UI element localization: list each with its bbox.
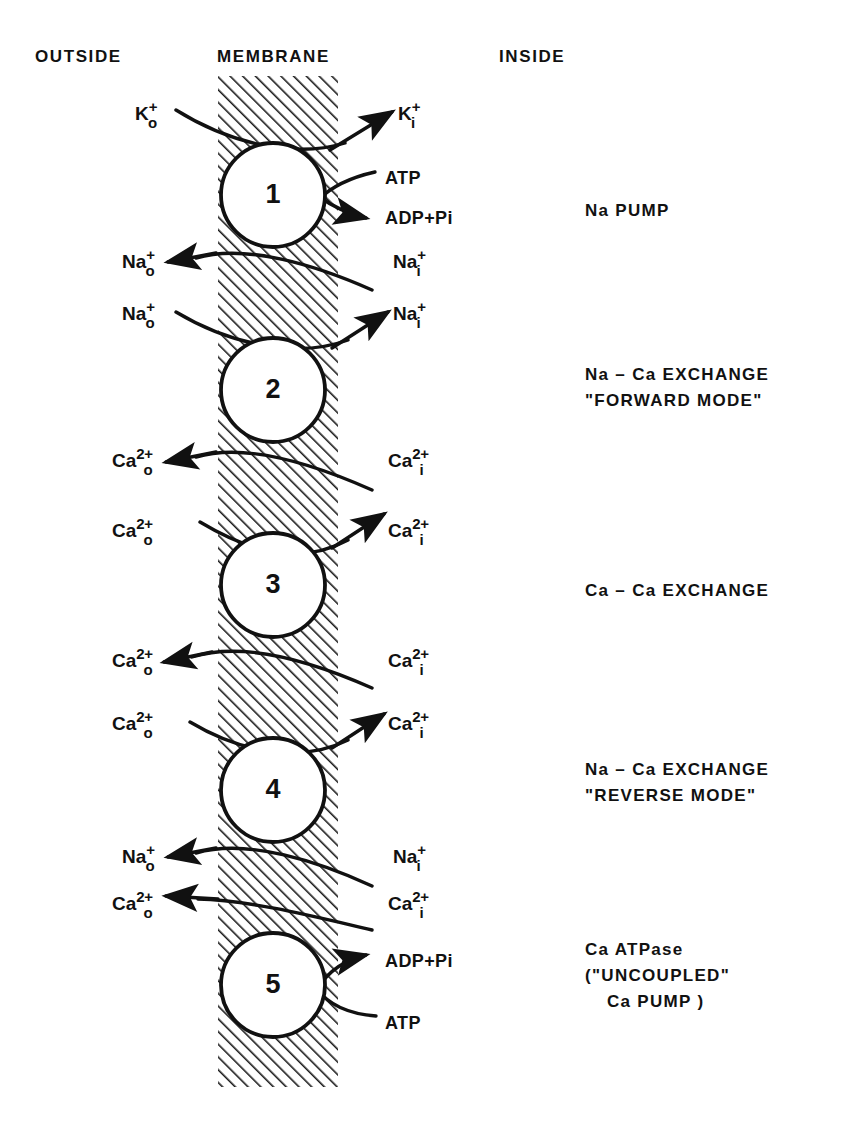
ion-charge: 2+ — [136, 515, 152, 532]
ion-compartment: i — [419, 904, 423, 921]
ion-label-outside-ca-out-1: Ca2+o — [112, 447, 153, 474]
ion-label-outside-na-out-2: Na+o — [122, 300, 155, 327]
ion-symbol: Ca — [112, 713, 136, 734]
ion-compartment: i — [417, 314, 421, 331]
column-header-membrane: MEMBRANE — [217, 47, 330, 67]
molecule-label-adp-pi-5: ADP+Pi — [385, 951, 453, 972]
ion-charge: + — [146, 298, 154, 315]
ion-charge: + — [417, 246, 425, 263]
ion-charge: + — [412, 98, 420, 115]
ion-compartment: o — [148, 114, 157, 131]
system-name-line: Na – Ca EXCHANGE — [585, 757, 769, 783]
system-name-line: "FORWARD MODE" — [585, 388, 769, 414]
ion-symbol: Ca — [388, 520, 412, 541]
ion-compartment: i — [419, 461, 423, 478]
system-name-line: Ca ATPase — [585, 937, 730, 963]
system-name-line: "REVERSE MODE" — [585, 783, 769, 809]
ion-label-inside-na-in-3: Na+i — [393, 843, 421, 870]
ion-compartment: o — [146, 857, 155, 874]
ion-symbol: Ca — [112, 520, 136, 541]
arrow-na-influx-2-head — [332, 312, 388, 348]
ion-compartment: i — [417, 857, 421, 874]
ion-charge: + — [146, 246, 154, 263]
carrier-number-5: 5 — [253, 971, 293, 998]
ion-label-outside-na-out-1: Na+o — [122, 248, 155, 275]
ion-charge: + — [149, 98, 157, 115]
ion-symbol: Ca — [388, 893, 412, 914]
ion-symbol: Na — [122, 251, 146, 272]
ion-compartment: i — [419, 724, 423, 741]
ion-charge: 2+ — [136, 888, 152, 905]
ion-symbol: K — [398, 103, 412, 124]
ion-symbol: K — [135, 103, 149, 124]
ion-charge: 2+ — [136, 645, 152, 662]
ion-symbol: Ca — [388, 713, 412, 734]
ion-compartment: o — [143, 661, 152, 678]
arrow-ca-efflux-5-head — [166, 896, 218, 899]
ion-symbol: Ca — [112, 893, 136, 914]
ion-charge: + — [417, 841, 425, 858]
carrier-number-3: 3 — [253, 571, 293, 598]
ion-compartment: i — [419, 661, 423, 678]
ion-symbol: Na — [393, 251, 417, 272]
ion-label-inside-ca-in-1: Ca2+i — [388, 447, 424, 474]
ion-charge: 2+ — [412, 708, 428, 725]
ion-label-inside-na-in-2: Na+i — [393, 300, 421, 327]
ion-compartment: o — [143, 724, 152, 741]
ion-symbol: Ca — [112, 450, 136, 471]
membrane-transport-diagram: OUTSIDE MEMBRANE INSIDE K+oNa+oNa+oCa2+o… — [0, 0, 854, 1127]
ion-charge: 2+ — [412, 645, 428, 662]
ion-label-inside-ca-in-4: Ca2+i — [388, 710, 424, 737]
ion-compartment: i — [417, 262, 421, 279]
system-name-line: Ca – Ca EXCHANGE — [585, 578, 769, 604]
ion-label-inside-ca-in-5: Ca2+i — [388, 890, 424, 917]
system-name-5: Ca ATPase("UNCOUPLED"Ca PUMP ) — [585, 937, 730, 1015]
ion-label-outside-k-out: K+o — [135, 100, 157, 127]
arrow-na-efflux-1-head — [168, 253, 216, 262]
system-name-3: Ca – Ca EXCHANGE — [585, 578, 769, 604]
carrier-number-2: 2 — [253, 376, 293, 403]
system-name-line: ("UNCOUPLED" — [585, 963, 730, 989]
ion-label-inside-ca-in-3: Ca2+i — [388, 647, 424, 674]
ion-symbol: Na — [122, 846, 146, 867]
ion-compartment: o — [143, 461, 152, 478]
system-name-line: Na PUMP — [585, 198, 670, 224]
arrow-ca-influx-3-head — [332, 514, 384, 548]
ion-compartment: o — [146, 314, 155, 331]
arrow-k-influx-head — [330, 112, 392, 150]
system-name-4: Na – Ca EXCHANGE"REVERSE MODE" — [585, 757, 769, 809]
ion-charge: + — [146, 841, 154, 858]
ion-charge: 2+ — [412, 515, 428, 532]
ion-symbol: Ca — [388, 650, 412, 671]
ion-compartment: o — [143, 531, 152, 548]
ion-charge: 2+ — [136, 708, 152, 725]
ion-compartment: i — [411, 114, 415, 131]
ion-symbol: Na — [393, 303, 417, 324]
ion-label-inside-k-in: K+i — [398, 100, 415, 127]
ion-label-outside-na-out-3: Na+o — [122, 843, 155, 870]
ion-label-outside-ca-out-5: Ca2+o — [112, 890, 153, 917]
ion-symbol: Na — [122, 303, 146, 324]
carrier-number-4: 4 — [253, 776, 293, 803]
ion-label-inside-ca-in-2: Ca2+i — [388, 517, 424, 544]
ion-symbol: Na — [393, 846, 417, 867]
molecule-label-atp-1: ATP — [385, 168, 421, 189]
system-name-1: Na PUMP — [585, 198, 670, 224]
ion-label-inside-na-in-1: Na+i — [393, 248, 421, 275]
ion-compartment: i — [419, 531, 423, 548]
column-header-inside: INSIDE — [499, 47, 565, 67]
arrow-ca-efflux-2-head — [166, 452, 216, 462]
ion-label-outside-ca-out-4: Ca2+o — [112, 710, 153, 737]
ion-compartment: o — [146, 262, 155, 279]
molecule-label-atp-5: ATP — [385, 1013, 421, 1034]
carrier-number-1: 1 — [253, 181, 293, 208]
ion-charge: 2+ — [136, 445, 152, 462]
molecule-label-adp-pi-1: ADP+Pi — [385, 208, 453, 229]
system-name-line: Ca PUMP ) — [585, 989, 730, 1015]
ion-charge: 2+ — [412, 445, 428, 462]
system-name-line: Na – Ca EXCHANGE — [585, 362, 769, 388]
ion-charge: 2+ — [412, 888, 428, 905]
arrow-na-efflux-4-head — [168, 848, 216, 857]
ion-label-outside-ca-out-2: Ca2+o — [112, 517, 153, 544]
arrow-ca-influx-4-head — [332, 714, 384, 748]
